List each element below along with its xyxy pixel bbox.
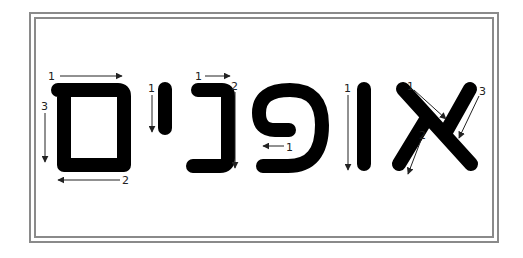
alef-glyph-right-arm <box>447 89 470 130</box>
nun-label-1: 1 <box>195 70 202 83</box>
alef-label-3: 3 <box>479 85 486 98</box>
letter-nun: 1 2 <box>193 70 238 168</box>
alef-label-2: 2 <box>419 129 426 142</box>
pe-label-1: 1 <box>286 141 293 154</box>
vav-label-1: 1 <box>344 82 351 95</box>
alef-label-1: 1 <box>407 80 414 93</box>
letter-vav: 1 <box>344 82 364 170</box>
letter-alef: 1 2 3 <box>399 80 486 174</box>
yod-label-1: 1 <box>148 82 155 95</box>
final-mem-label-3: 3 <box>41 100 48 113</box>
pe-glyph <box>259 90 322 166</box>
nun-label-2: 2 <box>231 80 238 93</box>
final-mem-label-2: 2 <box>122 174 129 187</box>
final-mem-glyph <box>58 90 124 165</box>
stroke-order-diagram: 1 2 3 1 1 2 1 1 1 2 3 <box>0 0 523 258</box>
letter-pe: 1 <box>259 90 322 166</box>
nun-glyph <box>193 90 228 166</box>
letter-yod: 1 <box>148 82 165 132</box>
final-mem-label-1: 1 <box>48 70 55 83</box>
letter-final-mem: 1 2 3 <box>41 70 129 187</box>
